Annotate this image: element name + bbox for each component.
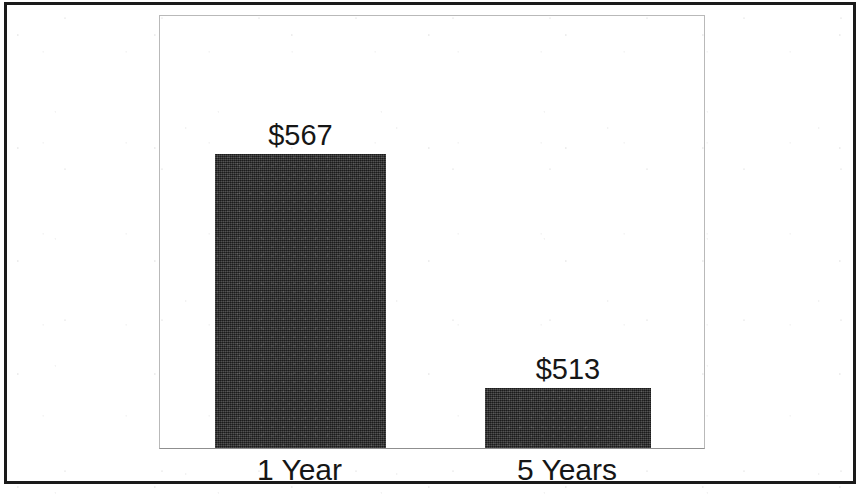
chart-screenshot: $567 $513 1 Year 5 Years	[0, 0, 863, 494]
category-label-1-year: 1 Year	[214, 455, 385, 485]
bar-1-year	[215, 154, 386, 448]
value-label-1-year: $567	[215, 121, 386, 150]
plot-area: $567 $513	[159, 15, 705, 449]
value-label-5-years: $513	[485, 355, 651, 384]
category-label-5-years: 5 Years	[484, 455, 650, 485]
bar-5-years	[485, 388, 651, 448]
outer-border: $567 $513 1 Year 5 Years	[4, 2, 856, 484]
